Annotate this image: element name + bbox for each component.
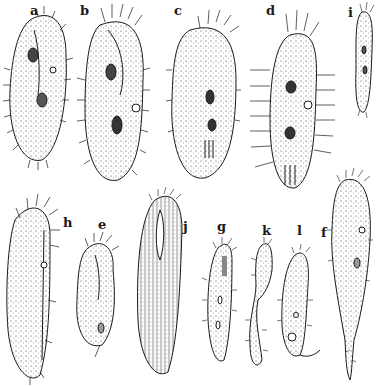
organism-i (356, 2, 374, 118)
organism-j (138, 187, 182, 374)
panel-label-f: f (321, 226, 327, 239)
panel-label-h: h (63, 216, 72, 229)
organism-k (245, 237, 272, 365)
panel-label-c: c (174, 4, 182, 17)
panel-label-a: a (30, 4, 38, 17)
panel-label-g: g (217, 220, 226, 233)
organism-a (3, 6, 73, 170)
panel-label-l: l (297, 224, 302, 237)
panel-label-i: i (348, 6, 353, 19)
ciliate-illustration (0, 0, 382, 386)
organism-l (277, 244, 320, 356)
panel-label-d: d (266, 4, 275, 17)
organism-e (77, 232, 119, 357)
panel-label-k: k (262, 224, 271, 237)
organism-f (327, 168, 373, 380)
panel-label-b: b (80, 4, 89, 17)
organism-b (77, 4, 150, 180)
organism-c (166, 10, 241, 178)
organism-g (202, 237, 237, 361)
panel-label-j: j (183, 220, 188, 233)
organism-d (250, 10, 335, 188)
organism-h (7, 194, 60, 385)
panel-label-e: e (98, 218, 106, 231)
